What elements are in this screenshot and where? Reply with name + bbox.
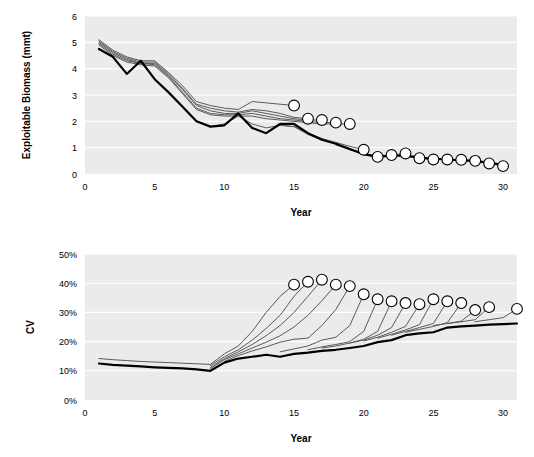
x-axis-tick-label: 20 [359, 182, 369, 192]
y-axis-tick-label: 0% [64, 396, 77, 406]
x-axis-tick-label: 30 [498, 182, 508, 192]
terminal-year-marker [330, 279, 341, 290]
terminal-year-marker [289, 279, 300, 290]
terminal-year-marker [330, 117, 341, 128]
terminal-year-marker [317, 115, 328, 126]
terminal-year-marker [498, 161, 509, 172]
cv-chart-svg: 0%10%20%30%40%50%051015202530YearCV [0, 228, 534, 457]
terminal-year-marker [386, 296, 397, 307]
terminal-year-marker [344, 119, 355, 130]
terminal-year-marker [358, 144, 369, 155]
x-axis-tick-label: 20 [359, 408, 369, 418]
y-axis-tick-label: 4 [72, 64, 77, 74]
y-axis-tick-label: 6 [72, 12, 77, 22]
x-axis-tick-label: 0 [82, 182, 87, 192]
terminal-year-marker [470, 155, 481, 166]
terminal-year-marker [428, 154, 439, 165]
x-axis-tick-label: 15 [289, 408, 299, 418]
x-axis-tick-label: 0 [82, 408, 87, 418]
figure-root: 0123456051015202530YearExploitable Bioma… [0, 0, 534, 457]
terminal-year-marker [456, 154, 467, 165]
x-axis-tick-label: 5 [152, 408, 157, 418]
y-axis-tick-label: 10% [59, 366, 77, 376]
terminal-year-marker [344, 281, 355, 292]
x-axis-tick-label: 5 [152, 182, 157, 192]
terminal-year-marker [428, 294, 439, 305]
y-axis-tick-label: 3 [72, 91, 77, 101]
terminal-year-marker [414, 153, 425, 164]
terminal-year-marker [470, 305, 481, 316]
terminal-year-marker [372, 294, 383, 305]
x-axis-tick-label: 15 [289, 182, 299, 192]
biomass-chart-panel: 0123456051015202530YearExploitable Bioma… [0, 0, 534, 228]
y-axis-tick-label: 0 [72, 170, 77, 180]
terminal-year-marker [414, 299, 425, 310]
x-axis-title: Year [290, 207, 311, 218]
x-axis-tick-label: 25 [428, 408, 438, 418]
terminal-year-marker [484, 302, 495, 313]
y-axis-tick-label: 20% [59, 337, 77, 347]
terminal-year-marker [456, 298, 467, 309]
y-axis-tick-label: 50% [59, 250, 77, 260]
terminal-year-marker [289, 100, 300, 111]
y-axis-title: Exploitable Biomass (mmt) [21, 31, 32, 159]
terminal-year-marker [372, 151, 383, 162]
terminal-year-marker [386, 150, 397, 161]
x-axis-tick-label: 30 [498, 408, 508, 418]
terminal-year-marker [484, 158, 495, 169]
x-axis-tick-label: 10 [219, 408, 229, 418]
terminal-year-marker [442, 154, 453, 165]
terminal-year-marker [303, 276, 314, 287]
y-axis-title: CV [25, 320, 36, 334]
y-axis-tick-label: 1 [72, 143, 77, 153]
terminal-year-marker [317, 274, 328, 285]
terminal-year-marker [303, 113, 314, 124]
terminal-year-marker [512, 304, 523, 315]
y-axis-tick-label: 30% [59, 308, 77, 318]
y-axis-tick-label: 40% [59, 279, 77, 289]
terminal-year-marker [442, 296, 453, 307]
x-axis-tick-label: 10 [219, 182, 229, 192]
cv-chart-panel: 0%10%20%30%40%50%051015202530YearCV [0, 228, 534, 457]
x-axis-title: Year [290, 433, 311, 444]
biomass-chart-svg: 0123456051015202530YearExploitable Bioma… [0, 0, 534, 228]
y-axis-tick-label: 2 [72, 117, 77, 127]
x-axis-tick-label: 25 [428, 182, 438, 192]
terminal-year-marker [358, 289, 369, 300]
terminal-year-marker [400, 148, 411, 159]
terminal-year-marker [400, 298, 411, 309]
y-axis-tick-label: 5 [72, 38, 77, 48]
